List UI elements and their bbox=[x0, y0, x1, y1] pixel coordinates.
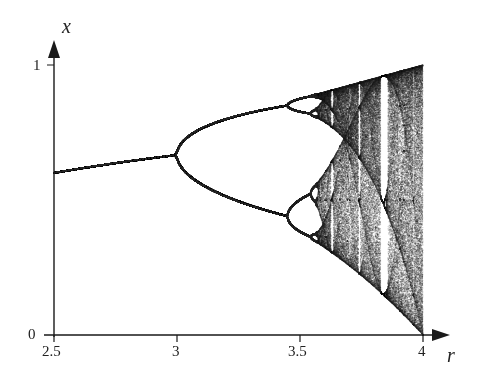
x-tick-label-2-5: 2.5 bbox=[42, 344, 61, 359]
bifurcation-plot bbox=[0, 0, 485, 390]
y-tick-label-0: 0 bbox=[28, 327, 36, 342]
x-tick-label-4: 4 bbox=[418, 344, 426, 359]
y-tick-label-1: 1 bbox=[33, 58, 41, 73]
y-axis-label: x bbox=[62, 16, 71, 36]
x-tick-label-3: 3 bbox=[172, 344, 180, 359]
x-axis-label: r bbox=[447, 345, 455, 365]
x-tick-label-3-5: 3.5 bbox=[288, 344, 307, 359]
